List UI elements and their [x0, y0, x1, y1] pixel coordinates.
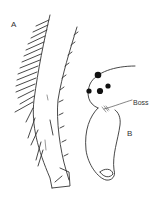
- eye-spot: [95, 72, 102, 79]
- label-boss: Boss: [133, 99, 149, 106]
- label-b: B: [127, 130, 132, 138]
- label-a: A: [11, 21, 16, 29]
- illustration: A Boss B: [0, 0, 161, 204]
- appendage-a: [15, 15, 78, 188]
- head-b: [86, 66, 135, 180]
- eye-spots: [86, 72, 110, 94]
- eye-spot: [97, 88, 103, 94]
- eye-spot: [86, 88, 91, 93]
- eye-spot: [105, 83, 110, 88]
